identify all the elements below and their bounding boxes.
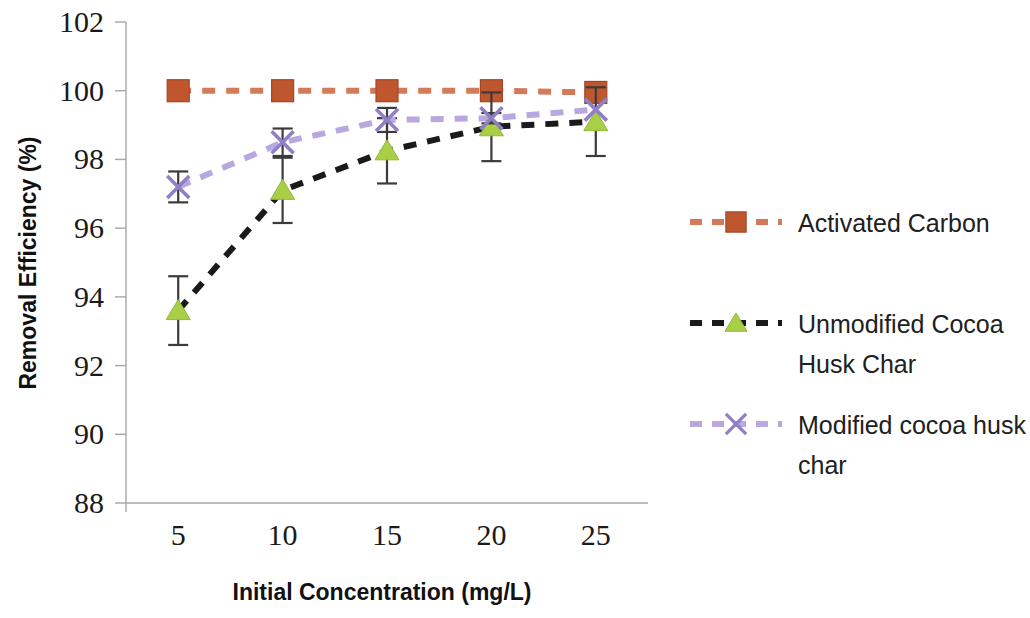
marker-square <box>726 212 746 232</box>
x-tick-label: 15 <box>372 518 402 551</box>
x-tick-label: 20 <box>476 518 506 551</box>
marker-triangle <box>375 140 399 160</box>
y-tick-label: 92 <box>74 349 104 382</box>
legend-item-2[interactable]: Unmodified CocoaHusk Char <box>690 310 1004 378</box>
legend-label: char <box>798 451 847 479</box>
marker-square <box>167 80 189 102</box>
x-tick-label: 25 <box>581 518 611 551</box>
y-tick-label: 88 <box>74 486 104 519</box>
legend-label: Husk Char <box>798 350 916 378</box>
y-axis-tick-labels: 889092949698100102 <box>59 5 104 519</box>
marker-triangle <box>271 179 295 199</box>
x-tick-label: 5 <box>171 518 186 551</box>
x-axis-tick-labels: 510152025 <box>171 518 611 551</box>
removal-efficiency-line-chart: 889092949698100102 510152025 Removal Eff… <box>0 0 1030 618</box>
y-tick-label: 100 <box>59 74 104 107</box>
chart-figure: 889092949698100102 510152025 Removal Eff… <box>0 0 1030 618</box>
y-tick-label: 96 <box>74 211 104 244</box>
chart-legend: Activated CarbonUnmodified CocoaHusk Cha… <box>690 209 1026 479</box>
x-axis-title: Initial Concentration (mg/L) <box>233 579 532 605</box>
series-markers <box>166 111 608 320</box>
legend-item-1[interactable]: Activated Carbon <box>690 209 990 237</box>
y-tick-label: 90 <box>74 417 104 450</box>
marker-square <box>376 80 398 102</box>
marker-square <box>272 80 294 102</box>
legend-label: Activated Carbon <box>798 209 990 237</box>
error-bars <box>168 108 501 202</box>
legend-label: Modified cocoa husk <box>798 411 1026 439</box>
x-tick-label: 10 <box>268 518 298 551</box>
legend-item-3[interactable]: Modified cocoa huskchar <box>690 411 1026 479</box>
y-axis-title: Removal Efficiency (%) <box>15 136 41 389</box>
legend-label: Unmodified Cocoa <box>798 310 1004 338</box>
series-1 <box>167 80 607 104</box>
y-axis-ticks <box>115 22 126 503</box>
y-tick-label: 98 <box>74 142 104 175</box>
marker-triangle <box>584 111 608 131</box>
y-tick-label: 102 <box>59 5 104 38</box>
y-tick-label: 94 <box>74 280 104 313</box>
series-layer <box>166 80 608 345</box>
